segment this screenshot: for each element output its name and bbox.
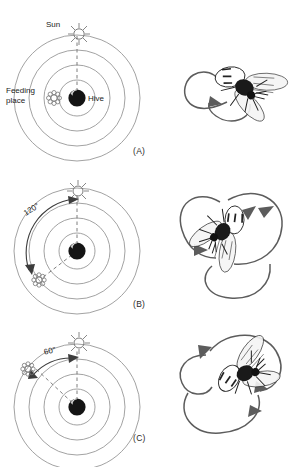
bee-icon bbox=[179, 189, 263, 278]
hive-sphere-icon-a bbox=[68, 89, 85, 106]
panel-a-field-diagram: Sun Feeding place Hive bbox=[0, 0, 180, 167]
panel-b-letter: (B) bbox=[133, 299, 145, 309]
sun-label: Sun bbox=[46, 20, 60, 30]
hive-sphere-icon-c bbox=[68, 398, 85, 415]
panel-b-field-diagram: 120° bbox=[0, 166, 180, 321]
sun-starburst-icon bbox=[68, 23, 90, 45]
panel-b: 120° bbox=[0, 166, 299, 321]
panel-c-letter: (C) bbox=[133, 433, 146, 443]
bee-icon bbox=[202, 328, 293, 415]
panel-b-dance-diagram bbox=[172, 166, 299, 321]
bee-waggle-dance-figure: Sun Feeding place Hive bbox=[0, 0, 299, 467]
panel-a-dance-diagram bbox=[172, 0, 299, 167]
sun-starburst-icon bbox=[68, 332, 90, 354]
bee-icon bbox=[201, 50, 293, 132]
panel-c: 60° bbox=[0, 321, 299, 467]
panel-c-field-diagram: 60° bbox=[0, 321, 180, 467]
angle-arc-arrowhead-bottom-b bbox=[25, 264, 35, 275]
flower-feeding-icon-c bbox=[21, 362, 35, 376]
dance-arrowhead-b-1 bbox=[258, 206, 274, 218]
angle-arc-c bbox=[33, 358, 73, 375]
hive-sphere-icon-b bbox=[68, 242, 85, 259]
dance-arrowhead-c-1 bbox=[198, 345, 212, 359]
panel-c-dance-diagram bbox=[172, 321, 299, 467]
panel-a-letter: (A) bbox=[133, 146, 145, 156]
hive-label: Hive bbox=[88, 94, 104, 104]
feeding-place-label: Feeding place bbox=[6, 86, 35, 105]
panel-a: Sun Feeding place Hive bbox=[0, 0, 299, 167]
